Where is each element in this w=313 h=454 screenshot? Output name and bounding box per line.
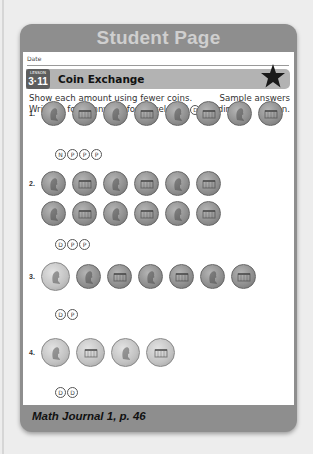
dime-symbol-icon: D [55, 387, 66, 398]
penny-heads-coin-icon [41, 101, 66, 126]
penny-tails-coin-icon [72, 201, 97, 226]
penny-tails-coin-icon [134, 171, 159, 196]
dime-symbol-icon: D [67, 387, 78, 398]
penny-symbol-icon: P [67, 309, 78, 320]
penny-heads-coin-icon [76, 264, 101, 289]
nickel-heads-coin-icon [111, 338, 140, 367]
problem-number: 1. [29, 110, 35, 117]
nickel-heads-coin-icon [41, 262, 70, 291]
lesson-title: Coin Exchange [58, 69, 145, 89]
lesson-badge: LESSON 3·11 [26, 69, 50, 89]
student-page-card: Student Page Date LESSON 3·11 Coin Excha… [20, 24, 297, 432]
worksheet-body: Date LESSON 3·11 Coin Exchange Show each… [23, 52, 294, 405]
lesson-badge-label: LESSON [26, 69, 50, 76]
nickel-heads-coin-icon [41, 338, 70, 367]
penny-tails-coin-icon [72, 101, 97, 126]
penny-tails-coin-icon [231, 264, 256, 289]
problem-number: 4. [29, 349, 35, 356]
problem-number: 2. [29, 180, 35, 187]
problem-number: 3. [29, 273, 35, 280]
dime-symbol-icon: D [55, 239, 66, 250]
penny-heads-coin-icon [165, 101, 190, 126]
penny-symbol-icon: P [79, 149, 90, 160]
page-title: Student Page [97, 27, 221, 48]
date-line: Date [27, 54, 289, 66]
date-label: Date [27, 55, 41, 62]
penny-heads-coin-icon [138, 264, 163, 289]
answer-symbols: DP [55, 304, 79, 323]
penny-symbol-icon: P [67, 149, 78, 160]
penny-tails-coin-icon [196, 201, 221, 226]
nickel-symbol-icon: N [55, 149, 66, 160]
dime-symbol-icon: D [55, 309, 66, 320]
card-header: Student Page [20, 24, 297, 52]
penny-heads-coin-icon [103, 171, 128, 196]
penny-tails-coin-icon [134, 101, 159, 126]
penny-heads-coin-icon [227, 101, 252, 126]
penny-heads-coin-icon [103, 101, 128, 126]
penny-symbol-icon: P [67, 239, 78, 250]
penny-heads-coin-icon [103, 201, 128, 226]
card-footer: Math Journal 1, p. 46 [20, 405, 297, 432]
footer-reference: Math Journal 1, p. 46 [32, 410, 146, 422]
penny-tails-coin-icon [169, 264, 194, 289]
penny-tails-coin-icon [72, 171, 97, 196]
penny-tails-coin-icon [196, 171, 221, 196]
nickel-tails-coin-icon [146, 338, 175, 367]
penny-heads-coin-icon [41, 201, 66, 226]
star-icon [260, 63, 286, 89]
penny-symbol-icon: P [79, 239, 90, 250]
penny-heads-coin-icon [165, 171, 190, 196]
penny-heads-coin-icon [41, 171, 66, 196]
penny-heads-coin-icon [165, 201, 190, 226]
penny-tails-coin-icon [134, 201, 159, 226]
sample-answers-note-1: Sample answers [220, 93, 290, 104]
nickel-tails-coin-icon [76, 338, 105, 367]
penny-heads-coin-icon [200, 264, 225, 289]
page-edge-rule [2, 0, 4, 454]
lesson-header: LESSON 3·11 Coin Exchange [26, 69, 290, 89]
penny-tails-coin-icon [258, 101, 283, 126]
answer-symbols: NPPP [55, 144, 103, 163]
answer-symbols: DPP [55, 234, 91, 253]
penny-symbol-icon: P [91, 149, 102, 160]
penny-tails-coin-icon [107, 264, 132, 289]
lesson-number: 3·11 [26, 76, 50, 87]
answer-symbols: DD [55, 382, 79, 401]
penny-tails-coin-icon [196, 101, 221, 126]
